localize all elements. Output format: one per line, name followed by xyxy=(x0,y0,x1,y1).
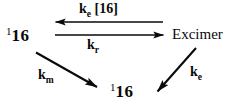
rate-kr-subscript: r xyxy=(95,45,99,55)
rate-ke-decay-symbol: k xyxy=(190,64,198,79)
species-label-monomer-left: 116 xyxy=(6,26,30,44)
species-label-monomer-bottom: 116 xyxy=(110,82,134,100)
rate-ke-concentration: [16] xyxy=(95,1,118,16)
rate-label-monomer-decay: km xyxy=(38,68,54,85)
rate-ke-symbol: k xyxy=(79,1,87,16)
rate-label-excimer-decay: ke xyxy=(190,65,202,82)
monomer-left-number: 16 xyxy=(12,26,30,45)
rate-ke-decay-subscript: e xyxy=(198,72,202,82)
rate-km-symbol: k xyxy=(38,67,46,82)
monomer-bottom-number: 16 xyxy=(116,82,134,101)
rate-km-subscript: m xyxy=(46,75,54,85)
species-label-excimer: Excimer xyxy=(172,27,223,42)
rate-label-excimer-formation: ke [16] xyxy=(79,2,118,19)
rate-kr-symbol: k xyxy=(87,37,95,52)
rate-label-excimer-dissociation: kr xyxy=(87,38,99,55)
reaction-scheme-diagram: 116 Excimer 116 ke [16] kr km ke xyxy=(0,0,232,106)
